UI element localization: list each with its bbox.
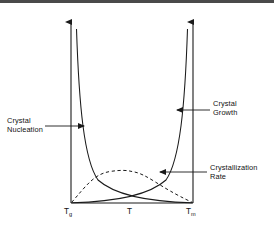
- label-crystal-nucleation-line2: Nucleation: [7, 125, 43, 134]
- label-crystal-growth: Crystal Growth: [213, 99, 237, 117]
- label-crystal-nucleation-line1: Crystal: [7, 116, 43, 125]
- axis-tick-label-tg: Tg: [64, 207, 72, 217]
- axis-tick-t-base: T: [127, 207, 132, 216]
- axis-tick-label-t: T: [127, 207, 132, 217]
- axis-tick-tg-sub: g: [69, 211, 72, 217]
- label-crystal-nucleation: Crystal Nucleation: [7, 116, 43, 134]
- axis-tick-tm-sub: m: [191, 211, 196, 217]
- curve-crystallization-rate: [72, 170, 193, 202]
- label-crystallization-rate-line2: Rate: [210, 172, 258, 181]
- label-crystal-growth-line1: Crystal: [213, 99, 237, 108]
- label-crystallization-rate: Crystallization Rate: [210, 163, 258, 181]
- curve-crystal-growth: [72, 29, 188, 203]
- curve-crystal-nucleation: [77, 29, 193, 203]
- figure-root: Crystal Nucleation Crystal Growth Crysta…: [0, 0, 274, 239]
- axis-tick-label-tm: Tm: [186, 207, 196, 217]
- label-crystallization-rate-line1: Crystallization: [210, 163, 258, 172]
- label-crystal-growth-line2: Growth: [213, 108, 237, 117]
